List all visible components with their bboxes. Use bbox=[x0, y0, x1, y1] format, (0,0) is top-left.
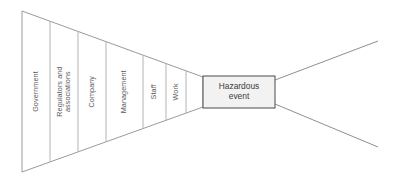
barrier-label-line: Company bbox=[87, 76, 96, 108]
hazardous-event-text-line: Hazardous bbox=[219, 81, 260, 91]
funnel-barrier-labels: GovernmentRegulators andassociationsComp… bbox=[31, 67, 180, 117]
barrier-label-staff: Staff bbox=[149, 84, 158, 99]
barrier-label-management: Management bbox=[119, 70, 128, 113]
funnel-group: GovernmentRegulators andassociationsComp… bbox=[22, 11, 203, 172]
hazardous-event-text-line: event bbox=[229, 91, 250, 101]
barrier-label-line: Government bbox=[31, 71, 40, 112]
hazardous-event-group[interactable]: Hazardousevent bbox=[203, 76, 275, 108]
barrier-label-government: Government bbox=[31, 71, 40, 112]
barrier-label-line: Staff bbox=[149, 84, 158, 99]
bowtie-diagram: GovernmentRegulators andassociationsComp… bbox=[0, 0, 394, 183]
barrier-label-line: Management bbox=[119, 70, 128, 113]
barrier-label-company: Company bbox=[87, 76, 96, 108]
consequence-lines-group bbox=[275, 41, 378, 147]
bowtie-diagram-canvas: GovernmentRegulators andassociationsComp… bbox=[0, 0, 394, 183]
consequence-line-upper bbox=[275, 41, 378, 80]
consequence-line-lower bbox=[275, 104, 378, 147]
barrier-label-regulators-and-associations: Regulators andassociations bbox=[55, 67, 73, 117]
barrier-label-line: associations bbox=[63, 71, 72, 112]
barrier-label-line: Work bbox=[171, 83, 180, 100]
barrier-label-work: Work bbox=[171, 83, 180, 100]
